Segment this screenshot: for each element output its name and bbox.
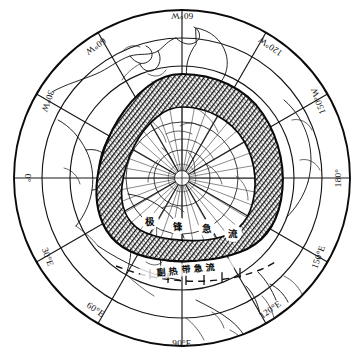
meridian-label-180: 180° xyxy=(333,169,343,187)
north-pole-marker xyxy=(175,171,190,186)
jet-label-char-2: 锋 xyxy=(173,221,183,232)
map-canvas: 60°W 120°W 150°W 180° 150°E 120°E 90°E 6… xyxy=(0,0,364,357)
meridian-label-000: 0° xyxy=(23,174,33,183)
jet-label-char-4: 流 xyxy=(228,228,238,239)
jet-label-char-1: 极 xyxy=(145,216,155,227)
meridian-label-090e: 90°E xyxy=(172,338,191,348)
meridian-label-060w: 60°W xyxy=(171,11,193,21)
jet-label-char-3: 急 xyxy=(202,223,212,234)
polar-jet-stream-map-figure: 60°W 120°W 150°W 180° 150°E 120°E 90°E 6… xyxy=(0,0,364,357)
